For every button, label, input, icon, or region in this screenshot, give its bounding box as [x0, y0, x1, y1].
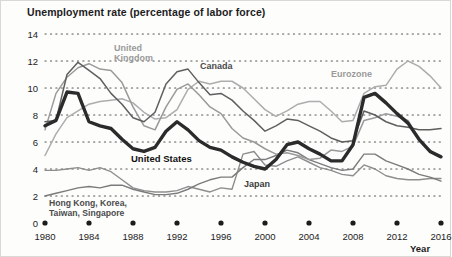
x-axis-tick-label: 1988: [122, 231, 143, 242]
series-annotation-united-states: United States: [131, 153, 192, 164]
x-axis-tick-marks: [42, 220, 443, 225]
y-axis-tick-label: 10: [27, 83, 38, 94]
series-annotation-united-kingdom: United Kingdom: [114, 43, 153, 63]
series-annotation-japan: Japan: [244, 179, 270, 189]
series-annotation-tigers: Hong Kong, Korea, Taiwan, Singapore: [49, 198, 127, 218]
x-axis-tick-mark: [174, 220, 179, 225]
chart-plot-area: 14121086420 1980198419881992199620002004…: [1, 1, 452, 257]
y-axis-tick-label: 2: [33, 191, 38, 202]
x-axis-tick-label: 2004: [298, 231, 319, 242]
x-axis-tick-label: 2008: [342, 231, 363, 242]
x-axis-tick-mark: [42, 220, 47, 225]
x-axis-tick-label: 2016: [430, 231, 451, 242]
x-axis-tick-label: 1996: [210, 231, 231, 242]
x-axis-tick-mark: [262, 220, 267, 225]
y-axis-tick-label: 12: [27, 56, 38, 67]
x-axis-tick-label: 2000: [254, 231, 275, 242]
series-lines: [45, 61, 441, 196]
x-axis-tick-mark: [86, 220, 91, 225]
series-annotation-tigers-line1: Hong Kong, Korea,: [49, 198, 127, 208]
x-axis-tick-mark: [394, 220, 399, 225]
x-axis-tick-mark: [438, 220, 443, 225]
series-annotation-united-kingdom-line1: United: [114, 43, 153, 53]
y-axis-tick-label: 0: [33, 218, 38, 229]
y-axis-tick-label: 14: [27, 29, 38, 40]
x-axis-tick-label: 1984: [78, 231, 99, 242]
x-axis-tick-label: 2012: [386, 231, 407, 242]
series-line-eurozone: [45, 61, 441, 156]
series-annotation-canada: Canada: [200, 61, 233, 71]
series-annotation-united-kingdom-line2: Kingdom: [114, 53, 153, 63]
series-line-canada: [45, 62, 441, 142]
x-axis-name: Year: [410, 243, 430, 254]
y-axis-tick-labels: 14121086420: [27, 29, 38, 229]
x-axis-tick-mark: [130, 220, 135, 225]
series-annotation-eurozone: Eurozone: [331, 69, 372, 79]
x-axis-tick-mark: [218, 220, 223, 225]
x-axis-tick-mark: [350, 220, 355, 225]
y-axis-tick-label: 4: [33, 164, 38, 175]
y-axis-tick-label: 6: [33, 137, 38, 148]
y-axis-tick-label: 8: [33, 110, 38, 121]
x-axis-tick-mark: [306, 220, 311, 225]
x-axis-tick-label: 1992: [166, 231, 187, 242]
x-axis-tick-label: 1980: [34, 231, 55, 242]
series-annotation-tigers-line2: Taiwan, Singapore: [49, 208, 127, 218]
x-axis-tick-labels: 1980198419881992199620002004200820122016: [34, 231, 451, 242]
